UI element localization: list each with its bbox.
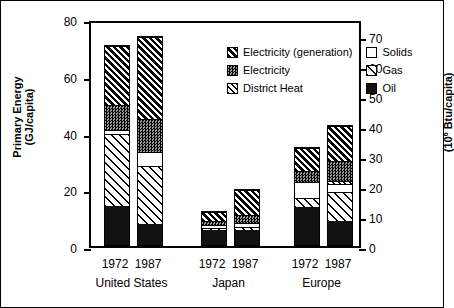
bar-segment-solids bbox=[202, 225, 226, 228]
bar-segment-gas bbox=[328, 192, 352, 221]
y-axis-right-tick bbox=[359, 129, 366, 131]
bar-segment-solids bbox=[328, 184, 352, 192]
legend-swatch-oil-icon bbox=[366, 83, 377, 94]
legend-label: District Heat bbox=[243, 83, 303, 94]
bar-stack bbox=[294, 147, 320, 246]
legend-item: Gas bbox=[366, 65, 412, 76]
bar-segment-oil bbox=[202, 230, 226, 245]
y-axis-right-tick-label: 20 bbox=[369, 183, 409, 195]
legend-swatch-dheat-icon bbox=[227, 83, 238, 94]
bar-segment-solids bbox=[235, 223, 259, 227]
bar-segment-elec bbox=[295, 171, 319, 182]
y-axis-right-tick-label: 0 bbox=[369, 243, 409, 255]
legend-swatch-elec-icon bbox=[227, 65, 238, 76]
bar-segment-gas bbox=[202, 228, 226, 231]
y-axis-right-tick bbox=[359, 219, 366, 221]
legend-swatch-gas-icon bbox=[366, 65, 377, 76]
x-axis-tick-label: 1987 bbox=[311, 257, 365, 271]
bar-segment-oil bbox=[328, 221, 352, 245]
y-axis-left-tick bbox=[84, 79, 91, 81]
bar-segment-gen bbox=[295, 148, 319, 172]
y-axis-right-tick-label: 70 bbox=[369, 33, 409, 45]
bar-segment-gen bbox=[235, 190, 259, 215]
bar-segment-elec bbox=[202, 221, 226, 225]
legend-label: Oil bbox=[382, 83, 395, 94]
bar-segment-elec bbox=[105, 105, 129, 130]
y-axis-left-tick-label: 80 bbox=[37, 16, 77, 28]
y-axis-left-tick-label: 0 bbox=[37, 243, 77, 255]
y-axis-right-tick bbox=[359, 99, 366, 101]
legend-item: Oil bbox=[366, 83, 412, 94]
y-axis-left-tick-label: 20 bbox=[37, 186, 77, 198]
y-axis-left-title: Primary Energy (GJ/capita) bbox=[11, 57, 35, 177]
y-axis-right-title: (106 Btu/capita) bbox=[440, 52, 454, 172]
bar-segment-elec bbox=[328, 161, 352, 181]
y-axis-left-tick-label: 60 bbox=[37, 73, 77, 85]
bar-segment-elec bbox=[235, 215, 259, 223]
legend-column-right: SolidsGasOil bbox=[366, 47, 412, 94]
bar-segment-gen bbox=[202, 212, 226, 221]
legend-column-left: Electricity (generation)ElectricityDistr… bbox=[227, 47, 352, 94]
bar-segment-elec bbox=[138, 119, 162, 153]
plot-area: 020406080 010203040506070 Electricity (g… bbox=[89, 21, 361, 248]
bar-segment-gen bbox=[105, 46, 129, 105]
y-axis-left-tick-label: 40 bbox=[37, 130, 77, 142]
x-axis-group-label: Europe bbox=[262, 276, 382, 290]
bar-segment-gen bbox=[328, 126, 352, 161]
y-axis-right-tick-label: 40 bbox=[369, 123, 409, 135]
legend-item: Electricity (generation) bbox=[227, 47, 352, 58]
y-axis-right-tick-label: 10 bbox=[369, 213, 409, 225]
bar-segment-gas bbox=[235, 227, 259, 230]
bar-segment-solids bbox=[138, 152, 162, 166]
y2-exponent: 6 bbox=[442, 132, 449, 136]
bar-segment-solids bbox=[105, 130, 129, 134]
bar-segment-dheat bbox=[328, 181, 352, 184]
bar-segment-solids bbox=[295, 182, 319, 197]
bar-segment-oil bbox=[105, 206, 129, 245]
y-axis-left-title-line1: Primary Energy bbox=[11, 57, 23, 177]
legend-label: Electricity bbox=[243, 65, 290, 76]
y-axis-right-tick bbox=[359, 189, 366, 191]
y-axis-right-tick bbox=[359, 159, 366, 161]
legend-label: Solids bbox=[382, 47, 412, 58]
y-axis-right-title-line: (106 Btu/capita) bbox=[440, 52, 454, 172]
y-axis-left-tick bbox=[84, 136, 91, 138]
bar-stack bbox=[104, 45, 130, 246]
legend-item: Electricity bbox=[227, 65, 352, 76]
y-axis-right-tick bbox=[359, 249, 366, 251]
bar-segment-oil bbox=[295, 207, 319, 245]
y2-suffix: Btu/capita) bbox=[442, 72, 454, 132]
bar-segment-oil bbox=[235, 230, 259, 245]
bar-stack bbox=[234, 189, 260, 246]
x-axis-tick-label: 1987 bbox=[121, 257, 175, 271]
bar-segment-gas bbox=[138, 166, 162, 224]
bar-segment-gas bbox=[105, 134, 129, 206]
y-axis-left-tick bbox=[84, 192, 91, 194]
y-axis-left-tick bbox=[84, 249, 91, 251]
legend-label: Electricity (generation) bbox=[243, 47, 352, 58]
bar-segment-gas bbox=[295, 198, 319, 208]
bar-stack bbox=[201, 211, 227, 246]
bar-segment-oil bbox=[138, 224, 162, 245]
y2-prefix: (10 bbox=[442, 136, 454, 152]
x-axis-tick-label: 1987 bbox=[218, 257, 272, 271]
legend-item: District Heat bbox=[227, 83, 352, 94]
chart-legend: Electricity (generation)ElectricityDistr… bbox=[227, 47, 441, 94]
legend-item: Solids bbox=[366, 47, 412, 58]
y-axis-right-tick bbox=[359, 39, 366, 41]
y-axis-left-title-line2: (GJ/capita) bbox=[23, 57, 35, 177]
legend-swatch-gen-icon bbox=[227, 47, 238, 58]
bar-stack bbox=[137, 36, 163, 246]
y-axis-left-tick bbox=[84, 22, 91, 24]
bar-stack bbox=[327, 125, 353, 246]
y-axis-right-tick-label: 30 bbox=[369, 153, 409, 165]
bar-segment-gen bbox=[138, 37, 162, 119]
legend-label: Gas bbox=[382, 65, 402, 76]
legend-swatch-solids-icon bbox=[366, 47, 377, 58]
y-axis-right-tick-label: 50 bbox=[369, 93, 409, 105]
